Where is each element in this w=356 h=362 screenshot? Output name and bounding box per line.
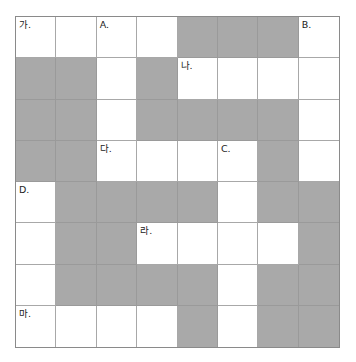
answer-cell[interactable]: [258, 58, 298, 99]
shaded-cell: [97, 265, 137, 306]
shaded-cell: [56, 58, 96, 99]
shaded-cell: [178, 182, 218, 223]
shaded-cell: [56, 223, 96, 264]
shaded-cell: [299, 182, 339, 223]
shaded-cell: [178, 265, 218, 306]
clue-number-label: A.: [100, 19, 109, 30]
shaded-cell: [97, 223, 137, 264]
answer-cell[interactable]: [56, 17, 96, 58]
shaded-cell: [258, 141, 298, 182]
shaded-cell: [299, 306, 339, 347]
clue-number-label: 마.: [19, 308, 31, 319]
answer-cell[interactable]: 라.: [137, 223, 177, 264]
answer-cell[interactable]: [137, 17, 177, 58]
answer-cell[interactable]: [178, 223, 218, 264]
answer-cell[interactable]: [218, 223, 258, 264]
answer-cell[interactable]: [137, 141, 177, 182]
shaded-cell: [16, 141, 56, 182]
shaded-cell: [137, 100, 177, 141]
shaded-cell: [258, 182, 298, 223]
answer-cell[interactable]: 가.: [16, 17, 56, 58]
clue-number-label: 다.: [100, 143, 112, 154]
shaded-cell: [137, 265, 177, 306]
answer-cell[interactable]: B.: [299, 17, 339, 58]
shaded-cell: [258, 265, 298, 306]
answer-cell[interactable]: 나.: [178, 58, 218, 99]
clue-number-label: C.: [221, 143, 231, 154]
shaded-cell: [178, 17, 218, 58]
clue-number-label: D.: [19, 184, 29, 195]
shaded-cell: [56, 100, 96, 141]
answer-cell[interactable]: [218, 306, 258, 347]
answer-cell[interactable]: [97, 100, 137, 141]
answer-cell[interactable]: [56, 306, 96, 347]
clue-number-label: B.: [302, 19, 312, 30]
answer-cell[interactable]: 다.: [97, 141, 137, 182]
shaded-cell: [299, 265, 339, 306]
clue-number-label: 나.: [181, 60, 193, 71]
answer-cell[interactable]: [299, 100, 339, 141]
answer-cell[interactable]: [218, 58, 258, 99]
shaded-cell: [97, 182, 137, 223]
shaded-cell: [56, 265, 96, 306]
shaded-cell: [137, 58, 177, 99]
answer-cell[interactable]: [218, 182, 258, 223]
shaded-cell: [258, 306, 298, 347]
crossword-grid: 가.A.B.나.다.C.D.라.마.: [15, 16, 340, 348]
clipped-header-text: [20, 0, 320, 3]
answer-cell[interactable]: [137, 306, 177, 347]
shaded-cell: [16, 100, 56, 141]
shaded-cell: [218, 100, 258, 141]
answer-cell[interactable]: [16, 223, 56, 264]
shaded-cell: [16, 58, 56, 99]
answer-cell[interactable]: 마.: [16, 306, 56, 347]
shaded-cell: [56, 141, 96, 182]
shaded-cell: [178, 100, 218, 141]
answer-cell[interactable]: [178, 141, 218, 182]
answer-cell[interactable]: C.: [218, 141, 258, 182]
answer-cell[interactable]: A.: [97, 17, 137, 58]
shaded-cell: [299, 223, 339, 264]
answer-cell[interactable]: [218, 265, 258, 306]
answer-cell[interactable]: [97, 306, 137, 347]
answer-cell[interactable]: [97, 58, 137, 99]
shaded-cell: [258, 100, 298, 141]
shaded-cell: [218, 17, 258, 58]
shaded-cell: [258, 17, 298, 58]
answer-cell[interactable]: [299, 58, 339, 99]
clue-number-label: 가.: [19, 19, 31, 30]
answer-cell[interactable]: [258, 223, 298, 264]
answer-cell[interactable]: [299, 141, 339, 182]
clue-number-label: 라.: [140, 225, 152, 236]
answer-cell[interactable]: [16, 265, 56, 306]
shaded-cell: [178, 306, 218, 347]
shaded-cell: [56, 182, 96, 223]
answer-cell[interactable]: D.: [16, 182, 56, 223]
shaded-cell: [137, 182, 177, 223]
